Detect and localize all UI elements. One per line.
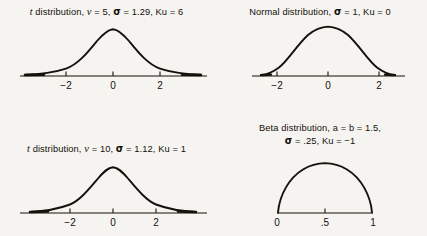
panel-beta: Beta distribution, a = b = 1.5, σ = .25,… bbox=[213, 118, 427, 236]
tick-label-neg2: −2 bbox=[60, 80, 71, 91]
tick-label-0: 0 bbox=[274, 217, 280, 228]
tick-label-1: 1 bbox=[370, 217, 376, 228]
tick-label-2: 2 bbox=[157, 80, 163, 91]
plot-normal bbox=[213, 0, 427, 118]
tick-label-2: 2 bbox=[376, 80, 382, 91]
tick-label-half: .5 bbox=[321, 217, 329, 228]
panel-t-nu-10: t distribution, ν = 10, σ = 1.12, Ku = 1… bbox=[0, 118, 213, 236]
tick-label-0: 0 bbox=[110, 80, 116, 91]
tick-label-neg2: −2 bbox=[64, 217, 75, 228]
tick-label-2: 2 bbox=[153, 217, 159, 228]
plot-t-nu-5 bbox=[0, 0, 213, 118]
panel-t-nu-5: t distribution, ν = 5, σ = 1.29, Ku = 6 … bbox=[0, 0, 213, 118]
plot-t-nu-10 bbox=[0, 118, 213, 236]
density-curve bbox=[30, 167, 196, 212]
density-curve bbox=[25, 29, 201, 75]
density-curve bbox=[278, 163, 372, 212]
figure-grid: t distribution, ν = 5, σ = 1.29, Ku = 6 … bbox=[0, 0, 427, 236]
tick-label-neg2: −2 bbox=[271, 80, 282, 91]
tick-label-0: 0 bbox=[325, 80, 331, 91]
density-curve bbox=[261, 27, 395, 75]
tick-label-0: 0 bbox=[110, 217, 116, 228]
panel-normal: Normal distribution, σ = 1, Ku = 0 −2 0 … bbox=[213, 0, 427, 118]
